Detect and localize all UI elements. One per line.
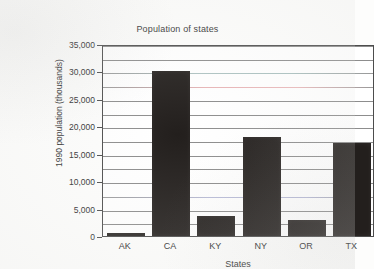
x-tick-label-ca: CA [147,241,192,251]
y-tick-label-35000: 35,000 [69,41,95,50]
plot-panel [102,45,374,237]
y-tick-label-5000: 5,000 [74,206,95,215]
bar-tx [333,143,371,236]
x-tick-label-or: OR [283,241,328,251]
chart-title: Population of states [40,24,315,34]
x-axis-tick-group: AKCAKYNYORTX [102,239,374,255]
y-tick-label-15000: 15,000 [69,151,95,160]
bar-group [103,46,373,236]
x-axis-title: States [102,259,374,269]
y-tick-label-10000: 10,000 [69,178,95,187]
x-tick-label-ky: KY [193,241,238,251]
bar-ny [243,137,281,236]
y-tick-label-25000: 25,000 [69,96,95,105]
y-axis-tick-group: 05,00010,00015,00020,00025,00030,00035,0… [40,45,102,237]
x-tick-label-tx: TX [329,241,374,251]
y-tick-label-0: 0 [90,233,95,242]
bar-ky [197,216,235,236]
y-tick-label-30000: 30,000 [69,68,95,77]
bar-or [288,220,326,236]
x-tick-label-ny: NY [238,241,283,251]
bar-ca [152,71,190,236]
y-tick-label-20000: 20,000 [69,123,95,132]
bar-chart-figure: Population of states 1990 population (th… [40,16,315,253]
y-tick-mark-0 [97,237,102,238]
bar-ak [107,233,145,236]
x-tick-label-ak: AK [102,241,147,251]
